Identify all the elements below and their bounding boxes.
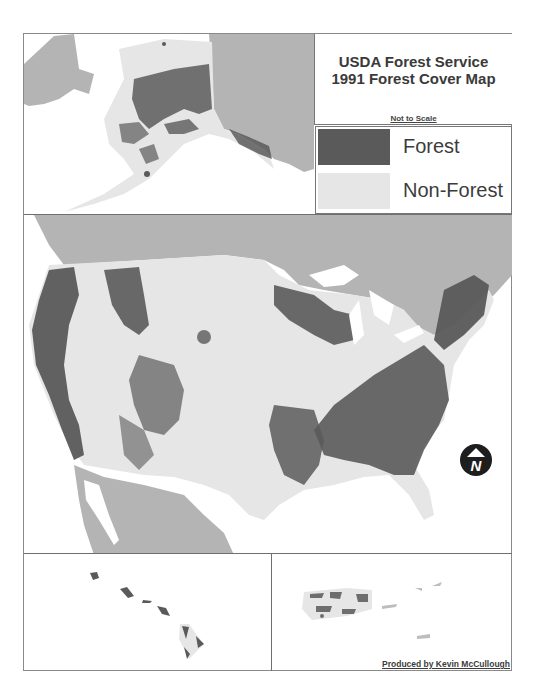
legend-label-forest: Forest bbox=[403, 135, 460, 158]
legend-item-forest: Forest bbox=[318, 129, 508, 167]
map-title-line2: 1991 Forest Cover Map bbox=[315, 70, 512, 87]
map-title-line1: USDA Forest Service bbox=[315, 53, 512, 70]
legend-item-non-forest: Non-Forest bbox=[318, 173, 508, 211]
svg-text:N: N bbox=[471, 457, 483, 474]
non-forest-swatch bbox=[318, 173, 390, 209]
title-box: USDA Forest Service 1991 Forest Cover Ma… bbox=[314, 34, 512, 125]
conus-map bbox=[24, 215, 512, 554]
hawaii-map bbox=[24, 554, 272, 671]
hawaii-panel bbox=[24, 554, 272, 671]
map-frame: USDA Forest Service 1991 Forest Cover Ma… bbox=[23, 33, 512, 671]
legend-label-non-forest: Non-Forest bbox=[403, 179, 503, 202]
forest-swatch bbox=[318, 129, 390, 165]
alaska-panel: USDA Forest Service 1991 Forest Cover Ma… bbox=[24, 34, 512, 214]
map-credit: Produced by Kevin McCullough bbox=[382, 659, 510, 669]
legend: Forest Non-Forest bbox=[315, 126, 512, 214]
conus-panel: N bbox=[24, 214, 512, 554]
scale-note: Not to Scale bbox=[315, 114, 512, 123]
puerto-rico-panel: Produced by Kevin McCullough bbox=[272, 554, 512, 671]
puerto-rico-map bbox=[272, 554, 512, 671]
north-arrow-icon: N bbox=[459, 443, 493, 477]
